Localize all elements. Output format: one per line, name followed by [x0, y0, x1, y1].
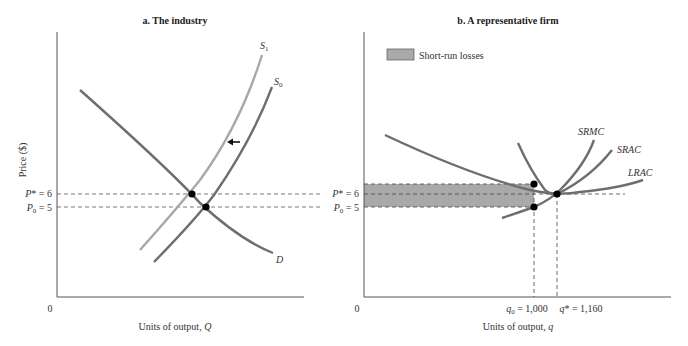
firm-origin-label: 0	[355, 303, 360, 314]
demand-curve-label: D	[275, 254, 284, 265]
industry-x-axis-label: Units of output, Q	[139, 321, 213, 332]
lrac-curve-label: LRAC	[627, 167, 653, 178]
firm-p-zero-label: P0 = 5	[333, 202, 359, 215]
supply-curve-new-label: S1	[260, 40, 269, 53]
firm-x-axis-label: Units of output, q	[483, 321, 554, 332]
srac-curve-label: SRAC	[617, 144, 641, 155]
industry-p-zero-label: P0 = 5	[26, 202, 52, 215]
supply-shift-arrow-icon	[227, 139, 240, 146]
firm-panel: b. A representative firm Short-run losse…	[331, 15, 671, 332]
short-run-losses-area	[364, 184, 534, 207]
demand-curve	[80, 90, 273, 253]
perfect-competition-diagram: a. The industry Price ($) 0 Units of out…	[0, 0, 688, 346]
industry-old-equilibrium-point	[202, 203, 209, 210]
industry-y-axis-label: Price ($)	[17, 143, 29, 178]
firm-panel-title: b. A representative firm	[457, 15, 559, 26]
legend-label-losses: Short-run losses	[419, 50, 484, 61]
industry-p-star-label: PP* = 6* = 6	[24, 188, 52, 199]
supply-curve-old-label: S0	[274, 76, 283, 89]
firm-q-zero-label: q0 = 1,000	[506, 303, 548, 316]
legend: Short-run losses	[387, 49, 484, 61]
srmc-curve-label: SRMC	[578, 126, 604, 137]
industry-panel-title: a. The industry	[142, 15, 207, 26]
industry-origin-label: 0	[48, 303, 53, 314]
firm-long-run-equilibrium-point	[553, 190, 560, 197]
firm-short-run-output-point	[530, 203, 537, 210]
supply-curve-new	[140, 55, 262, 250]
firm-q-star-label: q* = 1,160	[559, 303, 602, 314]
industry-panel: a. The industry Price ($) 0 Units of out…	[17, 15, 320, 332]
legend-swatch-losses	[387, 49, 414, 60]
firm-p-star-label: P* = 6	[331, 188, 359, 199]
firm-srac-at-q0-point	[530, 180, 537, 187]
industry-new-equilibrium-point	[188, 190, 195, 197]
